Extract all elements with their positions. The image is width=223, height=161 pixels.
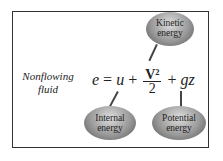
bubble-line1: Internal <box>84 113 136 123</box>
fluid-label: Nonflowing fluid <box>18 70 78 96</box>
eq-e: e <box>92 71 99 88</box>
potential-energy-bubble: Potential energy <box>152 106 206 140</box>
bubble-line2: energy <box>152 123 206 133</box>
eq-plus: + <box>128 71 137 88</box>
kinetic-energy-bubble: Kinetic energy <box>146 12 194 46</box>
bubble-line2: energy <box>146 28 194 38</box>
eq-equals: = <box>103 71 112 88</box>
eq-u: u <box>116 71 124 88</box>
bubble-line1: Kinetic <box>146 18 194 28</box>
internal-energy-bubble: Internal energy <box>84 106 136 140</box>
label-line1: Nonflowing <box>18 70 78 83</box>
eq-plus: + <box>167 71 176 88</box>
eq-denominator: 2 <box>143 82 161 95</box>
bubble-line1: Potential <box>152 113 206 123</box>
label-line2: fluid <box>18 83 78 96</box>
eq-gz: gz <box>181 71 195 88</box>
eq-numerator: V² <box>143 68 161 82</box>
eq-fraction: V² 2 <box>143 68 161 95</box>
bubble-line2: energy <box>84 123 136 133</box>
